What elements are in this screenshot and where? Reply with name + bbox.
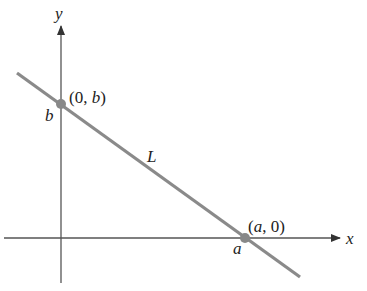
x-intercept-axis-label: a	[233, 239, 242, 258]
y-intercept-coord-label: (0, b)	[69, 88, 106, 107]
x-intercept-coord-label: (a, 0)	[248, 217, 285, 236]
y-intercept-point	[56, 99, 66, 109]
intercept-diagram: x y L (0, b) b (a, 0) a	[0, 0, 367, 291]
x-axis-label: x	[345, 229, 354, 248]
y-axis-label: y	[53, 4, 63, 23]
line-label: L	[146, 147, 156, 166]
y-intercept-axis-label: b	[45, 106, 54, 125]
